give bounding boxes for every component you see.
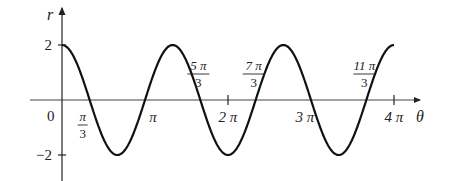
- svg-text:3: 3: [250, 75, 257, 90]
- svg-text:3: 3: [79, 126, 86, 141]
- svg-text:3: 3: [361, 75, 368, 90]
- fraction-annotation: 11 π3: [353, 58, 375, 90]
- svg-text:11 π: 11 π: [353, 58, 375, 73]
- x-tick-label: 4 π: [385, 109, 404, 125]
- x-tick-label: 2 π: [219, 109, 238, 125]
- y-axis-label: r: [47, 6, 54, 23]
- polar-r-theta-chart: 2−2π2 π3 π4 ππ35 π37 π311 π3 r θ 0: [0, 0, 449, 181]
- x-tick-label: 3 π: [295, 109, 315, 125]
- y-tick-label: 2: [45, 37, 53, 53]
- fraction-annotation: 5 π3: [187, 58, 209, 90]
- svg-text:5 π: 5 π: [190, 58, 207, 73]
- y-tick-label: −2: [36, 147, 52, 163]
- svg-text:3: 3: [195, 75, 202, 90]
- svg-text:7 π: 7 π: [246, 58, 263, 73]
- x-axis-label: θ: [416, 108, 424, 125]
- svg-text:π: π: [79, 109, 86, 124]
- x-tick-label: π: [149, 109, 157, 125]
- origin-label: 0: [47, 108, 55, 124]
- fraction-annotation: π3: [78, 109, 88, 141]
